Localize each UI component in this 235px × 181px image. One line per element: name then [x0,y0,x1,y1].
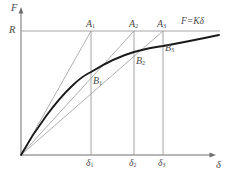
point-label-a3: A3 [157,19,166,29]
secant-line-2 [21,31,134,155]
equation-label: F=Kδ [181,17,204,27]
reference-level-label-R: R [9,25,15,36]
point-label-a2-sub: 2 [135,22,138,29]
x-axis-arrow-icon [210,153,217,158]
point-label-b1-sub: 1 [99,79,102,86]
point-label-a1: A1 [86,19,95,29]
y-axis-arrow-icon [19,7,24,14]
point-label-b3-sub: 3 [171,46,174,53]
tick-label-delta-1-sub: 1 [90,162,93,168]
force-displacement-curve [21,35,219,155]
point-label-b1: B1 [93,76,102,86]
point-label-b3: B3 [165,43,174,53]
x-axis-label: δ [216,160,221,171]
point-label-a3-sub: 3 [163,22,166,29]
tick-label-delta-2-sub: 2 [133,162,136,168]
figure-canvas [0,0,235,181]
force-displacement-figure: F δ R A1 A2 A3 B1 B2 B3 F=Kδ δ1 δ2 δ3 [0,0,235,181]
tick-label-delta-3-sub: 3 [162,162,165,168]
point-label-b2: B2 [136,56,145,66]
point-label-a1-sub: 1 [92,22,95,29]
tick-label-delta-2: δ2 [129,159,136,169]
tick-label-delta-1: δ1 [86,159,93,169]
y-axis-label: F [11,3,17,14]
point-label-a2: A2 [129,19,138,29]
point-label-b2-sub: 2 [142,59,145,66]
tick-label-delta-3: δ3 [158,159,165,169]
